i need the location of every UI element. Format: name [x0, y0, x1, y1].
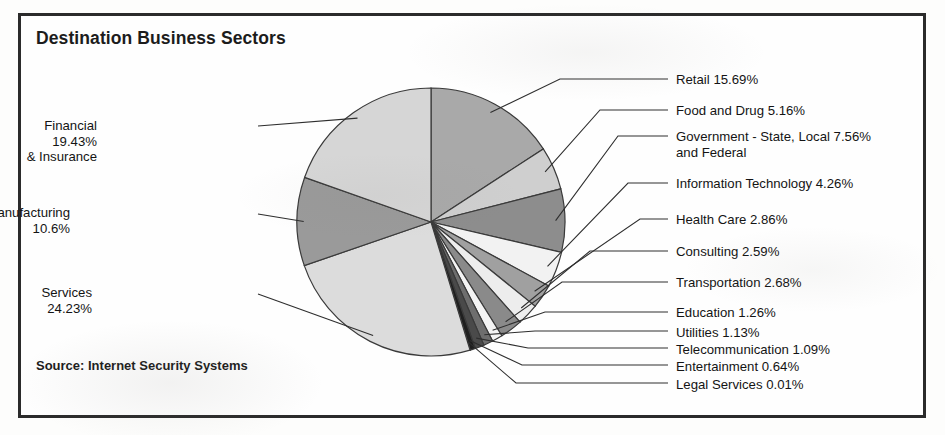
- source-note: Source: Internet Security Systems: [36, 358, 248, 373]
- callout-label-financial-insurance: Financial 19.43% & Insurance: [0, 118, 97, 165]
- leader-line-food-and-drug: [545, 110, 668, 172]
- callout-label-legal-services: Legal Services 0.01%: [676, 377, 804, 393]
- callout-label-entertainment: Entertainment 0.64%: [676, 359, 799, 375]
- leader-line-entertainment: [470, 340, 668, 365]
- page-title: Destination Business Sectors: [36, 28, 286, 49]
- callout-label-manufacturing: Manufacturing 10.6%: [0, 205, 70, 236]
- callout-label-telecommunication: Telecommunication 1.09%: [676, 342, 830, 358]
- callout-label-education: Education 1.26%: [676, 305, 776, 321]
- callout-label-health-care: Health Care 2.86%: [676, 212, 787, 228]
- pie-slice-group: [297, 88, 565, 356]
- callout-label-services: Services 24.23%: [0, 285, 92, 316]
- leader-line-telecommunication: [476, 338, 668, 348]
- callout-label-consulting: Consulting 2.59%: [676, 244, 779, 260]
- callout-label-retail: Retail 15.69%: [676, 72, 758, 88]
- callout-label-food-and-drug: Food and Drug 5.16%: [676, 103, 805, 119]
- callout-label-government: Government - State, Local 7.56% and Fede…: [676, 129, 871, 160]
- leader-line-government: [556, 136, 668, 221]
- leader-line-retail: [490, 79, 668, 113]
- callout-label-transportation: Transportation 2.68%: [676, 275, 802, 291]
- callout-label-information-technology: Information Technology 4.26%: [676, 176, 853, 192]
- chart-figure: Destination Business Sectors Financial 1…: [0, 0, 945, 435]
- callout-label-utilities: Utilities 1.13%: [676, 325, 760, 341]
- leader-line-utilities: [484, 331, 668, 335]
